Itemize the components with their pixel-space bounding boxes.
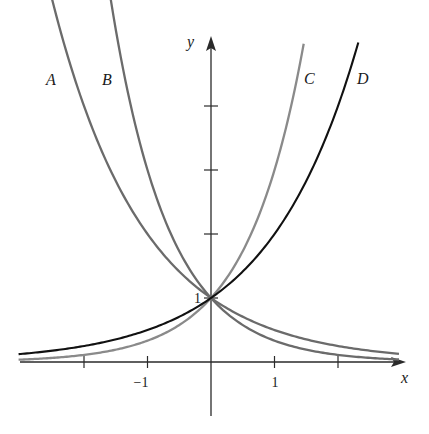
curve-b <box>19 0 399 360</box>
curve-label-a: A <box>45 71 56 88</box>
y-axis-label: y <box>185 33 195 51</box>
axes <box>20 36 406 416</box>
curve-label-c: C <box>304 70 315 87</box>
x-tick-label-neg1: −1 <box>134 375 149 390</box>
y-intercept-label: 1 <box>194 291 201 306</box>
curve-c <box>19 44 304 360</box>
exponential-functions-chart: y x −1 1 1 A B C D <box>0 0 429 434</box>
curves <box>19 0 399 360</box>
x-axis-label: x <box>400 369 408 386</box>
curve-label-d: D <box>356 70 369 87</box>
curve-d <box>19 42 359 354</box>
curve-label-b: B <box>102 71 112 88</box>
x-tick-label-1: 1 <box>272 375 279 390</box>
labels: y x −1 1 1 A B C D <box>45 33 408 390</box>
